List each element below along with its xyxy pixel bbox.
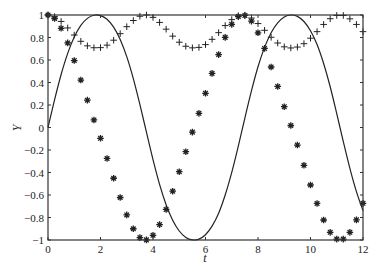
plus-marker xyxy=(110,37,117,44)
plus-marker xyxy=(163,26,170,33)
asterisk-marker xyxy=(123,212,130,219)
plus-marker xyxy=(327,15,334,22)
plus-marker xyxy=(320,21,327,28)
x-tick-label: 2 xyxy=(98,243,104,255)
plus-marker xyxy=(91,44,98,51)
asterisk-marker xyxy=(314,200,321,207)
asterisk-marker xyxy=(209,70,216,77)
chart: 024681012 −1−0.8−0.6−0.4−0.200.20.40.60.… xyxy=(0,0,378,279)
plus-marker xyxy=(169,33,176,40)
plus-marker xyxy=(176,39,183,46)
asterisk-marker xyxy=(84,97,91,104)
plus-marker xyxy=(209,36,216,43)
asterisk-marker xyxy=(97,135,104,142)
asterisk-marker xyxy=(64,40,71,47)
asterisk-marker xyxy=(333,236,340,243)
y-axis-ticks: −1−0.8−0.6−0.4−0.200.20.40.60.81 xyxy=(24,9,363,246)
asterisk-marker xyxy=(117,194,124,201)
asterisk-marker xyxy=(110,175,117,182)
plus-marker xyxy=(274,40,281,47)
asterisk-marker xyxy=(274,83,281,90)
plus-marker xyxy=(215,29,222,36)
plus-marker xyxy=(97,44,104,51)
plus-marker xyxy=(64,25,71,32)
asterisk-marker xyxy=(91,117,98,124)
asterisk-marker xyxy=(196,110,203,117)
plot-area xyxy=(45,12,367,243)
plus-marker xyxy=(117,30,124,37)
plus-marker xyxy=(78,38,85,45)
plus-marker xyxy=(288,45,295,52)
asterisk-marker xyxy=(353,217,360,224)
x-tick-label: 4 xyxy=(150,243,156,255)
asterisk-marker xyxy=(307,182,314,189)
plus-marker xyxy=(314,28,321,35)
plus-marker xyxy=(255,20,262,27)
y-tick-label: 0.8 xyxy=(30,32,44,44)
plus-marker xyxy=(84,43,91,50)
asterisk-marker xyxy=(189,129,196,136)
plus-marker xyxy=(281,44,288,51)
plus-marker xyxy=(294,44,301,51)
y-tick-label: 0.6 xyxy=(30,54,44,66)
asterisk-marker xyxy=(130,225,137,232)
asterisk-marker xyxy=(340,236,347,243)
asterisk-marker xyxy=(288,122,295,129)
asterisk-marker xyxy=(261,45,268,52)
asterisk-marker xyxy=(71,57,78,64)
plot-frame xyxy=(48,15,363,240)
plus-marker xyxy=(347,16,354,23)
asterisk-marker xyxy=(301,162,308,169)
plus-marker xyxy=(189,45,196,52)
series-line xyxy=(48,15,363,240)
plus-marker xyxy=(228,16,235,23)
asterisk-marker xyxy=(268,64,275,71)
plus-marker xyxy=(268,34,275,41)
y-tick-label: −0.8 xyxy=(24,212,44,224)
plus-marker xyxy=(196,44,203,51)
y-tick-label: −0.6 xyxy=(24,189,44,201)
asterisk-marker xyxy=(215,51,222,58)
plus-marker xyxy=(261,27,268,34)
x-tick-label: 10 xyxy=(305,243,317,255)
asterisk-marker xyxy=(176,168,183,175)
y-tick-label: −1 xyxy=(32,234,44,246)
plus-marker xyxy=(222,22,229,29)
asterisk-marker xyxy=(78,77,85,84)
asterisk-marker xyxy=(255,29,262,36)
plus-marker xyxy=(137,13,144,20)
plus-marker xyxy=(301,40,308,47)
x-tick-label: 0 xyxy=(45,243,51,255)
asterisk-marker xyxy=(58,25,65,32)
asterisk-marker xyxy=(294,142,301,149)
asterisk-marker xyxy=(183,148,190,155)
y-tick-label: 1 xyxy=(39,9,45,21)
asterisk-marker xyxy=(222,34,229,41)
plus-marker xyxy=(183,43,190,50)
plus-marker xyxy=(104,42,111,49)
plus-marker xyxy=(123,23,130,30)
asterisk-marker xyxy=(281,103,288,110)
plus-marker xyxy=(202,41,209,48)
asterisk-marker xyxy=(327,229,334,236)
asterisk-marker xyxy=(156,221,163,228)
y-tick-label: 0.4 xyxy=(30,77,44,89)
asterisk-marker xyxy=(169,188,176,195)
y-axis-label: Y xyxy=(10,123,24,131)
y-tick-label: −0.2 xyxy=(24,144,44,156)
asterisk-marker xyxy=(163,206,170,213)
plus-marker xyxy=(248,15,255,22)
y-tick-label: 0 xyxy=(39,122,45,134)
plus-marker xyxy=(156,19,163,26)
x-tick-label: 12 xyxy=(358,243,369,255)
asterisk-marker xyxy=(320,217,327,224)
asterisk-marker xyxy=(202,90,209,97)
x-tick-label: 8 xyxy=(255,243,261,255)
plus-marker xyxy=(130,17,137,24)
y-tick-label: −0.4 xyxy=(24,167,44,179)
asterisk-marker xyxy=(347,229,354,236)
y-tick-label: 0.2 xyxy=(30,99,44,111)
asterisk-marker xyxy=(104,155,111,162)
plus-marker xyxy=(353,21,360,28)
plus-marker xyxy=(58,18,65,25)
